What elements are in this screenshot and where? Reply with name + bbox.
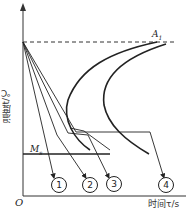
curve-marker-3: 3 xyxy=(106,176,122,192)
curve-marker-1: 1 xyxy=(51,177,67,193)
a1-label-sub: 1 xyxy=(159,34,163,41)
ms-label-main: M xyxy=(30,144,39,154)
cooling-curve-2 xyxy=(23,42,86,178)
cooling-curve-1 xyxy=(23,42,54,178)
y-axis-arrow-icon xyxy=(20,3,26,11)
y-axis-label: 温度t/℃ xyxy=(2,88,11,123)
cooling-curve-4 xyxy=(23,42,164,178)
curve-marker-4: 4 xyxy=(158,177,174,193)
ms-label-sub: s xyxy=(39,149,42,156)
ms-label: Ms xyxy=(30,145,42,156)
curve-marker-2: 2 xyxy=(82,177,98,193)
origin-label: O xyxy=(15,198,23,208)
a1-label: A1 xyxy=(152,30,162,41)
x-axis-label: 时间τ/s xyxy=(148,200,179,209)
transformation-end-curve xyxy=(104,44,166,154)
